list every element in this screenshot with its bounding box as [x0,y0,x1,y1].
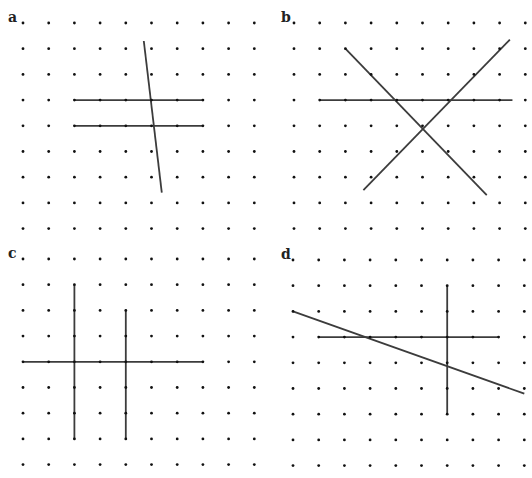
grid-dot [22,227,25,230]
grid-dot [176,99,179,102]
grid-dot [369,464,372,467]
grid-dot [292,413,295,416]
grid-dot [344,227,347,230]
grid-dot [202,227,205,230]
panel-label-b: b [281,10,291,24]
grid-dot [22,386,25,389]
grid-dot [202,412,205,415]
grid-dot [523,387,526,390]
grid-dot [446,413,449,416]
grid-dot [317,439,320,442]
grid-dot [124,202,127,205]
grid-dot [124,335,127,338]
grid-dot [150,176,153,179]
grid-dot [447,47,450,50]
grid-dot [22,124,25,127]
grid-dot [47,227,50,230]
grid-dot [99,386,102,389]
grid-dot [253,258,256,261]
grid-dot [176,386,179,389]
grid-dot [176,73,179,76]
grid-dot [394,361,397,364]
grid-dot [150,150,153,153]
grid-dot [317,310,320,313]
grid-dot [498,47,501,50]
grid-dot [124,22,127,25]
grid-dot [318,124,321,127]
grid-dot [22,283,25,286]
grid-dot [227,150,230,153]
panel-c [22,258,256,466]
grid-dot [420,284,423,287]
grid-dot [317,464,320,467]
grid-dot [370,47,373,50]
grid-dot [318,73,321,76]
grid-dot [253,463,256,466]
grid-dot [369,310,372,313]
grid-dot [227,258,230,261]
grid-dot [73,258,76,261]
grid-dot [524,176,527,179]
grid-dot [369,413,372,416]
grid-dot [176,412,179,415]
grid-dot [343,310,346,313]
grid-dot [395,227,398,230]
grid-dot [293,176,296,179]
panel-label-a: a [8,10,17,24]
grid-dot [524,150,527,153]
grid-dot [202,202,205,205]
grid-dot [317,259,320,262]
grid-dot [523,361,526,364]
grid-dot [124,124,127,127]
grid-dot [227,202,230,205]
grid-dot [497,387,500,390]
grid-dot [253,309,256,312]
grid-dot [421,202,424,205]
grid-dot [420,361,423,364]
grid-dot [293,47,296,50]
grid-dot [47,202,50,205]
grid-dot [446,259,449,262]
grid-dot [227,283,230,286]
grid-dot [47,335,50,338]
grid-dot [523,464,526,467]
grid-dot [472,439,475,442]
grid-dot [150,73,153,76]
grid-dot [73,386,76,389]
grid-dot [420,336,423,339]
grid-dot [99,412,102,415]
grid-dot [22,309,25,312]
grid-dot [523,439,526,442]
grid-dot [150,309,153,312]
grid-dot [150,124,153,127]
grid-dot [420,413,423,416]
grid-dot [99,360,102,363]
grid-dot [99,22,102,25]
grid-dot [73,202,76,205]
grid-dot [22,22,25,25]
grid-dot [498,176,501,179]
grid-dot [447,227,450,230]
grid-dot [150,360,153,363]
grid-dot [447,124,450,127]
grid-dot [318,227,321,230]
grid-dot [124,309,127,312]
grid-dot [99,335,102,338]
grid-dot [253,360,256,363]
grid-dot [73,309,76,312]
grid-dot [395,99,398,102]
grid-dot [47,283,50,286]
grid-dot [498,22,501,25]
grid-dot [253,227,256,230]
grid-dot [253,283,256,286]
grid-dot [343,439,346,442]
grid-dot [524,202,527,205]
grid-dot [176,463,179,466]
grid-dot [344,124,347,127]
grid-dot [202,150,205,153]
grid-dot [394,413,397,416]
grid-dot [317,361,320,364]
grid-dot [99,227,102,230]
grid-dot [292,439,295,442]
grid-dot [47,99,50,102]
